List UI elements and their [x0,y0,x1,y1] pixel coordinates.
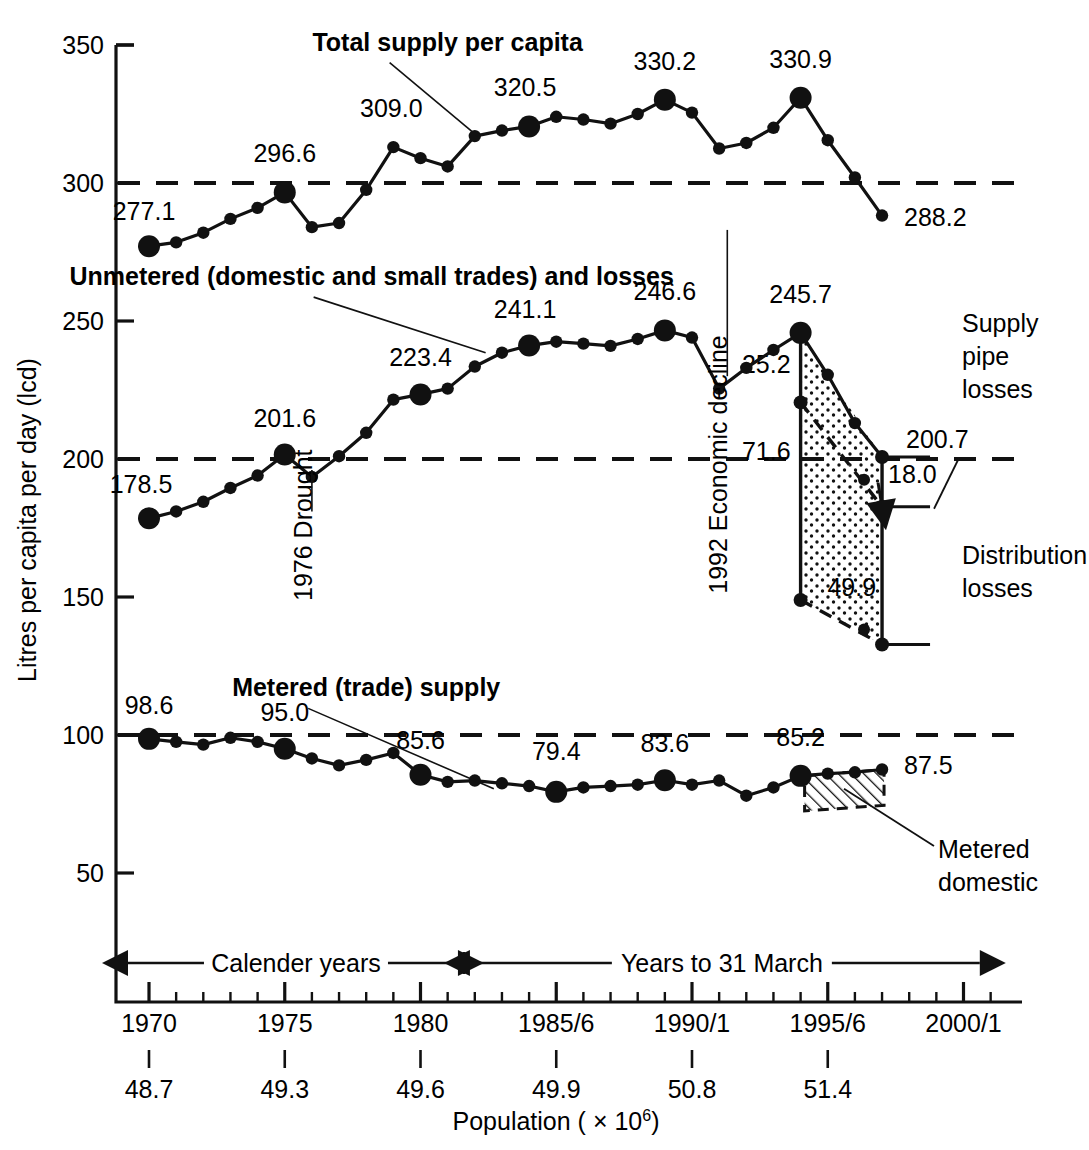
population-value: 49.3 [260,1075,309,1103]
data-point-highlighted [138,235,160,257]
data-point [632,333,644,345]
data-point-highlighted [274,181,296,203]
data-point [224,213,236,225]
data-point [496,347,508,359]
population-value: 48.7 [125,1075,174,1103]
annotation-supply-pipe-losses: Supplypipelosses [962,309,1039,403]
data-point [740,137,752,149]
data-point-highlighted [654,319,676,341]
data-point [360,184,372,196]
data-point [740,790,752,802]
data-point [849,417,861,429]
data-point [469,360,481,372]
data-point [523,780,535,792]
data-point [197,738,209,750]
data-point [686,331,698,343]
data-point [604,117,616,129]
data-point [822,369,834,381]
data-point-highlighted [410,383,432,405]
data-label: 241.1 [494,295,557,323]
x-axis-group: 1970197519801985/61990/11995/62000/148.7… [121,947,1002,1103]
data-point [849,766,861,778]
data-point [251,736,263,748]
supply-pipe-losses-leader [934,460,958,509]
data-point [197,496,209,508]
data-label: 85.2 [776,723,825,751]
data-label: 330.2 [634,47,697,75]
data-point [224,482,236,494]
data-point [333,217,345,229]
data-point [333,450,345,462]
data-label: 200.7 [906,425,969,453]
calendar-years-label: Calender years [211,949,381,977]
label-supply-pipe-losses-1998: 18.0 [888,460,937,488]
data-label: 288.2 [904,203,967,231]
x-axis-tick-label: 1990/1 [654,1009,730,1037]
data-point [170,505,182,517]
data-point [441,382,453,394]
data-point [632,778,644,790]
data-point [767,344,779,356]
y-axis-tick-label: 300 [62,169,104,197]
label-distribution-losses-1995: 71.6 [742,437,791,465]
data-point [251,202,263,214]
data-point [577,337,589,349]
data-point-highlighted [790,765,812,787]
data-point [414,152,426,164]
data-label: 245.7 [769,280,832,308]
data-label: 201.6 [253,404,316,432]
y-axis-tick-label: 250 [62,307,104,335]
data-label: 98.6 [125,691,174,719]
x-axis-tick-label: 1985/6 [518,1009,594,1037]
data-point [876,209,888,221]
data-label: 87.5 [904,751,953,779]
y-axis-tick-label: 350 [62,31,104,59]
data-point-highlighted [790,87,812,109]
data-point [469,130,481,142]
metered-domestic-leader [844,789,934,846]
loss-node [794,395,808,409]
data-point [822,767,834,779]
series-label-2: Metered (trade) supply [232,673,500,701]
x-axis-tick-label: 1995/6 [790,1009,866,1037]
series-label-1: Unmetered (domestic and small trades) an… [69,262,673,290]
series-leader-line [308,708,494,788]
y-axis-tick-label: 100 [62,721,104,749]
data-point [686,778,698,790]
data-point [876,763,888,775]
data-label: 83.6 [641,729,690,757]
population-value: 49.6 [396,1075,445,1103]
data-point [251,469,263,481]
data-point-highlighted [410,764,432,786]
series-label-0: Total supply per capita [312,28,584,56]
series-1 [138,319,888,529]
data-point [360,427,372,439]
data-point [876,451,888,463]
data-point [550,336,562,348]
data-point [577,781,589,793]
data-point [333,759,345,771]
data-point [767,781,779,793]
data-point [387,141,399,153]
data-point [170,736,182,748]
data-point [849,171,861,183]
data-point [767,122,779,134]
label-distribution-losses-1998: 49.9 [827,573,876,601]
data-point-highlighted [790,322,812,344]
annotation-distribution-losses: Distributionlosses [962,541,1087,602]
data-point [197,226,209,238]
y-axis-title: Litres per capita per day (lcd) [13,358,41,682]
x-axis-title: Population ( × 106) [453,1107,660,1135]
supply-per-capita-chart: 35030025020015010050 25.271.618.049.9 27… [0,0,1089,1150]
data-point [632,108,644,120]
data-label: 178.5 [110,470,173,498]
data-point [441,776,453,788]
data-point-highlighted [274,738,296,760]
data-label: 95.0 [260,698,309,726]
loss-node-inner [858,474,870,486]
data-point [360,754,372,766]
data-point [224,732,236,744]
x-axis-tick-label: 2000/1 [925,1009,1001,1037]
loss-node [875,500,889,514]
data-label: 223.4 [389,343,452,371]
